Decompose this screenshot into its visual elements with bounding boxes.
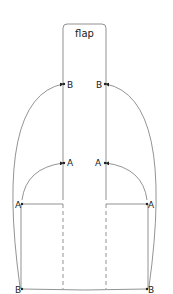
label-upper-right-b: B (96, 80, 102, 90)
arrow-right-a (106, 163, 147, 200)
label-upper-left-b: B (67, 80, 73, 90)
arrow-right-b (106, 84, 156, 287)
point-upper-left-a (63, 162, 65, 164)
label-lower-left-a: A (15, 200, 22, 210)
point-upper-left-b (63, 83, 65, 85)
point-upper-right-a (104, 162, 106, 164)
label-lower-right-b: B (148, 285, 154, 294)
label-lower-right-a: A (148, 200, 155, 210)
folding-diagram: flap B B A A A A B B (0, 0, 173, 294)
edge-bottom (22, 289, 147, 290)
flap-title: flap (75, 28, 94, 39)
label-lower-left-b: B (15, 285, 21, 294)
label-upper-left-a: A (67, 158, 74, 168)
arrow-left-a (22, 163, 63, 200)
flap-outline (63, 24, 106, 200)
label-upper-right-a: A (95, 158, 102, 168)
point-upper-right-b (104, 83, 106, 85)
arrow-left-b (13, 84, 63, 287)
